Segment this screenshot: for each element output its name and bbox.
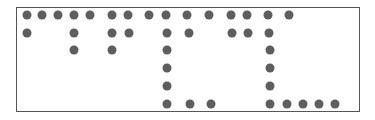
dot <box>163 82 172 91</box>
dot <box>228 29 237 38</box>
dot <box>285 11 294 20</box>
dot <box>108 11 117 20</box>
dot <box>23 29 32 38</box>
dot <box>264 11 273 20</box>
dot <box>145 11 154 20</box>
dot <box>244 29 253 38</box>
dot <box>163 100 172 109</box>
dot <box>163 29 172 38</box>
dot <box>183 11 192 20</box>
dot <box>266 82 275 91</box>
dot <box>243 11 252 20</box>
dot <box>70 46 79 55</box>
dot <box>70 29 79 38</box>
dot <box>108 29 117 38</box>
dot <box>227 11 236 20</box>
dot <box>163 64 172 73</box>
dot <box>163 46 172 55</box>
dot <box>23 11 32 20</box>
dot <box>299 100 308 109</box>
dot <box>283 100 292 109</box>
figure-frame <box>16 7 360 112</box>
dot <box>185 29 194 38</box>
dot <box>266 100 275 109</box>
dot <box>162 11 171 20</box>
dot <box>266 46 275 55</box>
dot <box>331 100 340 109</box>
dot <box>38 11 47 20</box>
dot <box>125 29 134 38</box>
dot <box>124 11 133 20</box>
dot <box>265 29 274 38</box>
dot <box>86 11 95 20</box>
dot <box>186 100 195 109</box>
dot <box>205 11 214 20</box>
dot <box>266 64 275 73</box>
dot <box>108 46 117 55</box>
dot <box>70 11 79 20</box>
dot <box>54 11 63 20</box>
dot <box>315 100 324 109</box>
dot <box>207 100 216 109</box>
